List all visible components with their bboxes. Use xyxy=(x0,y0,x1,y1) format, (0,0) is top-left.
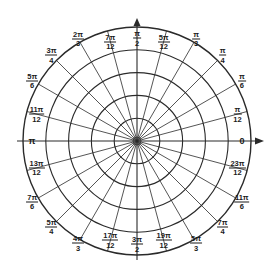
polar-grid-diagram: 0π12π6π4π35π12π27π122π33π45π611π12π13π12… xyxy=(0,0,274,271)
spoke-135 xyxy=(56,60,137,141)
angle-label-numerator: π xyxy=(29,137,36,146)
angle-label-denominator: 6 xyxy=(30,202,34,210)
angle-label: π xyxy=(29,137,36,146)
angle-label: 7π4 xyxy=(217,218,229,235)
angle-label-numerator: 23π xyxy=(229,159,245,168)
angle-label-numerator: π xyxy=(219,47,227,56)
angle-label-numerator: 0 xyxy=(239,137,244,146)
angle-label-denominator: 12 xyxy=(233,168,241,176)
angle-label-numerator: 3π xyxy=(131,236,143,245)
angle-label: 5π6 xyxy=(26,72,38,89)
angle-label-numerator: π xyxy=(192,30,200,39)
angle-label-denominator: 6 xyxy=(240,202,244,210)
angle-label-denominator: 12 xyxy=(159,241,167,249)
angle-label-denominator: 12 xyxy=(233,115,241,123)
spoke-225 xyxy=(56,141,137,222)
angle-label: π3 xyxy=(192,30,200,47)
angle-label-denominator: 12 xyxy=(106,241,114,249)
angle-label-numerator: 7π xyxy=(26,193,38,202)
angle-label: 0 xyxy=(239,137,244,146)
angle-label-denominator: 12 xyxy=(32,115,40,123)
angle-label-numerator: 3π xyxy=(45,47,57,56)
angle-label-numerator: 5π xyxy=(26,72,38,81)
angle-label-numerator: π xyxy=(234,106,242,115)
angle-label: 2π3 xyxy=(72,30,84,47)
spoke-45 xyxy=(137,60,218,141)
angle-label: 3π4 xyxy=(45,47,57,64)
angle-label: 4π3 xyxy=(72,235,84,252)
angle-label-denominator: 4 xyxy=(49,56,53,64)
spoke-120 xyxy=(80,42,137,141)
angle-label-denominator: 12 xyxy=(32,168,40,176)
angle-label-denominator: 4 xyxy=(49,227,53,235)
angle-label-numerator: π xyxy=(238,72,246,81)
angle-label-denominator: 6 xyxy=(30,81,34,89)
angle-label: 5π3 xyxy=(190,235,202,252)
spoke-240 xyxy=(80,141,137,240)
angle-label-denominator: 3 xyxy=(194,244,198,252)
angle-label-denominator: 12 xyxy=(159,42,167,50)
angle-label: 11π12 xyxy=(29,106,45,123)
arrow-right-icon xyxy=(255,138,264,145)
angle-label-numerator: 2π xyxy=(72,30,84,39)
angle-label-denominator: 2 xyxy=(135,39,139,47)
angle-label: 7π12 xyxy=(104,33,116,50)
angle-label-numerator: 5π xyxy=(190,235,202,244)
angle-label: π2 xyxy=(133,30,141,47)
angle-label-numerator: 4π xyxy=(72,235,84,244)
spoke-300 xyxy=(137,141,194,240)
angle-label: π12 xyxy=(233,106,241,123)
angle-label-numerator: 13π xyxy=(28,159,44,168)
spoke-315 xyxy=(137,141,218,222)
angle-label-denominator: 4 xyxy=(220,56,224,64)
angle-label-numerator: 7π xyxy=(217,218,229,227)
angle-label: 7π6 xyxy=(26,193,38,210)
angle-label-denominator: 6 xyxy=(240,81,244,89)
angle-label-numerator: π xyxy=(133,30,141,39)
spoke-30 xyxy=(137,84,236,141)
angle-label-numerator: 7π xyxy=(104,33,116,42)
spoke-210 xyxy=(38,141,137,198)
spoke-15 xyxy=(137,111,247,141)
arrow-up-icon xyxy=(134,18,141,26)
angle-label-numerator: 17π xyxy=(102,232,118,241)
spoke-60 xyxy=(137,42,194,141)
angle-label: 5π4 xyxy=(45,218,57,235)
angle-label: 3π2 xyxy=(131,236,143,253)
angle-label-denominator: 2 xyxy=(135,245,139,253)
angle-label: π4 xyxy=(219,47,227,64)
angle-label: 13π12 xyxy=(28,159,44,176)
spoke-330 xyxy=(137,141,236,198)
spoke-150 xyxy=(38,84,137,141)
angle-label-denominator: 3 xyxy=(76,244,80,252)
angle-label: 17π12 xyxy=(102,232,118,249)
angle-label-denominator: 4 xyxy=(220,227,224,235)
angle-label-numerator: 11π xyxy=(234,193,250,202)
angle-label-numerator: 19π xyxy=(156,232,172,241)
angle-label-numerator: 11π xyxy=(29,106,45,115)
angle-label: 19π12 xyxy=(156,232,172,249)
angle-label: 11π6 xyxy=(234,193,250,210)
angle-label-denominator: 12 xyxy=(106,42,114,50)
angle-label: 5π12 xyxy=(158,33,170,50)
angle-label: 23π12 xyxy=(229,159,245,176)
angle-label-denominator: 3 xyxy=(76,39,80,47)
angle-label-numerator: 5π xyxy=(158,33,170,42)
angle-label-numerator: 5π xyxy=(45,218,57,227)
angle-label: π6 xyxy=(238,72,246,89)
angle-label-denominator: 3 xyxy=(194,39,198,47)
